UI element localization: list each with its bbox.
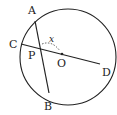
label-a: A [27,4,37,17]
label-d: D [102,66,111,79]
center-point-o [61,53,64,56]
label-angle-x: x [49,34,54,44]
circle-chords-diagram: A B C D P O x [0,0,117,115]
chord-ab [35,21,49,93]
label-c: C [9,38,17,51]
label-b: B [44,100,52,113]
label-o: O [57,57,66,70]
label-p: P [28,49,36,62]
